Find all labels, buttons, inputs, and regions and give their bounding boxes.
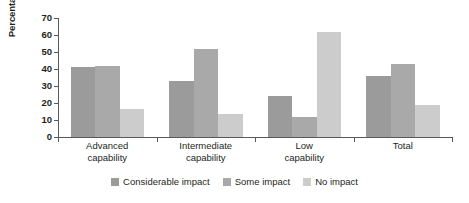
bar-chart: Percentage 010203040506070 Advancedcapab… [0, 0, 469, 203]
category-label-line-1: Low [255, 140, 354, 152]
legend-label: No impact [315, 176, 358, 187]
chart-legend: Considerable impactSome impactNo impact [0, 176, 469, 187]
y-axis-tick-label: 0 [47, 132, 52, 142]
bar [218, 114, 243, 137]
x-axis-category-labels: AdvancedcapabilityIntermediatecapability… [58, 140, 452, 168]
legend-swatch-icon [223, 178, 231, 186]
category-label-line-1: Advanced [58, 140, 157, 152]
legend-item: No impact [303, 176, 358, 187]
legend-label: Considerable impact [123, 176, 210, 187]
legend-swatch-icon [111, 178, 119, 186]
category-label-line-2: capability [58, 152, 157, 164]
bar [317, 32, 342, 137]
bar-group [58, 18, 157, 137]
bar-group [354, 18, 453, 137]
bar [71, 67, 96, 137]
y-axis-tick-label: 30 [41, 81, 52, 91]
bar [194, 49, 219, 137]
category-label-line-2: capability [157, 152, 256, 164]
bar [120, 109, 145, 137]
bar [95, 66, 120, 137]
legend-label: Some impact [235, 176, 290, 187]
x-axis-category-label: Intermediatecapability [157, 140, 256, 163]
category-label-line-1: Intermediate [157, 140, 256, 152]
bar [292, 117, 317, 137]
y-axis-tick-label: 50 [41, 47, 52, 57]
bar [169, 81, 194, 137]
y-axis-tick-label: 10 [41, 115, 52, 125]
y-axis-tick-label: 20 [41, 98, 52, 108]
y-axis-title: Percentage [6, 0, 20, 62]
bar [366, 76, 391, 137]
x-axis-tick-mark [452, 137, 453, 142]
legend-item: Considerable impact [111, 176, 210, 187]
y-axis-tick-label: 70 [41, 13, 52, 23]
plot-area: 010203040506070 [58, 18, 452, 137]
x-axis-category-label: Lowcapability [255, 140, 354, 163]
legend-swatch-icon [303, 178, 311, 186]
bar [268, 96, 293, 137]
y-axis-tick-label: 40 [41, 64, 52, 74]
legend-item: Some impact [223, 176, 290, 187]
bar [415, 105, 440, 137]
y-axis-tick-label: 60 [41, 30, 52, 40]
bar-group [255, 18, 354, 137]
category-label-line-2: capability [255, 152, 354, 164]
bar-group [157, 18, 256, 137]
x-axis-category-label: Advancedcapability [58, 140, 157, 163]
x-axis-category-label: Total [354, 140, 453, 152]
bar [391, 64, 416, 137]
category-label-line-1: Total [354, 140, 453, 152]
